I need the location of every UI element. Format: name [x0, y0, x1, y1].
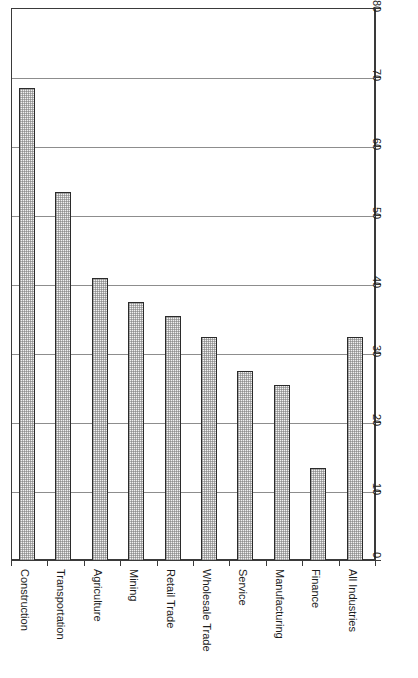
category-label: Transportation — [55, 569, 67, 640]
gridline-70 — [12, 78, 376, 79]
bar — [201, 337, 217, 561]
bar-chart: 01020304050607080 ConstructionTransporta… — [0, 0, 418, 678]
value-axis-label: 70 — [370, 69, 384, 103]
category-tick — [302, 561, 303, 566]
category-tick — [339, 561, 340, 566]
bar — [92, 278, 108, 561]
value-axis-label: 80 — [370, 0, 384, 34]
value-axis-label: 10 — [370, 483, 384, 517]
bar — [347, 337, 363, 561]
category-label: Construction — [19, 569, 31, 631]
plot-area — [11, 8, 375, 560]
bar — [237, 371, 253, 561]
value-axis-label: 40 — [370, 276, 384, 310]
bar — [165, 316, 181, 561]
gridline-60 — [12, 147, 376, 148]
category-tick — [375, 561, 376, 566]
category-label: Agriculture — [92, 569, 104, 622]
value-axis-label: 60 — [370, 138, 384, 172]
category-label: Retail Trade — [165, 569, 177, 628]
category-label: All Industries — [347, 569, 359, 632]
value-axis-label: 50 — [370, 207, 384, 241]
bar — [310, 468, 326, 561]
category-label: Manufacturing — [274, 569, 286, 639]
category-label: Finance — [310, 569, 322, 608]
category-tick — [11, 561, 12, 566]
value-axis-label: 30 — [370, 345, 384, 379]
category-label: Service — [237, 569, 249, 606]
category-label: Mining — [128, 569, 140, 601]
category-tick — [229, 561, 230, 566]
bar — [128, 302, 144, 561]
bar — [19, 88, 35, 561]
category-label: Wholesale Trade — [201, 569, 213, 652]
category-tick — [84, 561, 85, 566]
category-tick — [266, 561, 267, 566]
value-axis-label: 20 — [370, 414, 384, 448]
category-tick — [193, 561, 194, 566]
category-tick — [120, 561, 121, 566]
value-axis-label: 0 — [370, 552, 384, 586]
bar — [274, 385, 290, 561]
bar — [55, 192, 71, 561]
category-tick — [47, 561, 48, 566]
category-tick — [157, 561, 158, 566]
